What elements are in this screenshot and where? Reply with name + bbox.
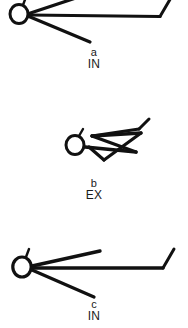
panel-b <box>0 114 188 170</box>
zigzag-hook <box>139 119 149 129</box>
caption-c-code: IN <box>0 311 188 323</box>
panel-a <box>0 0 188 46</box>
process-hook <box>160 0 172 17</box>
soma-circle-icon <box>66 135 84 154</box>
zigzag-segment-4 <box>104 133 141 160</box>
process-hook <box>163 249 174 268</box>
process-upper <box>29 0 112 14</box>
caption-b: b EX <box>0 178 188 201</box>
process-lower <box>32 270 94 297</box>
panel-c <box>0 240 188 300</box>
figure-root: a IN b EX <box>0 0 188 328</box>
panel-a-drawing <box>0 0 188 46</box>
panel-b-drawing <box>0 114 188 170</box>
soma-circle-icon <box>13 257 31 277</box>
process-lower <box>29 17 90 43</box>
soma-stub-icon <box>79 129 83 136</box>
soma-circle-icon <box>10 4 28 23</box>
caption-a: a IN <box>0 47 188 70</box>
panel-c-drawing <box>0 240 188 300</box>
process-upper <box>32 251 100 266</box>
caption-a-code: IN <box>0 59 188 71</box>
process-horizontal <box>29 15 160 17</box>
soma-stub-icon <box>26 249 29 257</box>
caption-b-code: EX <box>0 190 188 202</box>
caption-c: c IN <box>0 299 188 322</box>
